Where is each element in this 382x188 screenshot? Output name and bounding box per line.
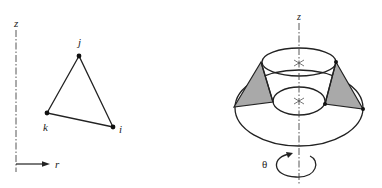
left-figure: z r j k i bbox=[13, 17, 122, 172]
node-k bbox=[45, 111, 50, 116]
right-figure: z θ bbox=[234, 11, 365, 185]
triangle-element bbox=[47, 56, 113, 127]
theta-label: θ bbox=[262, 158, 267, 170]
node-right-top bbox=[334, 60, 338, 64]
node-right-outer bbox=[361, 107, 365, 111]
r-arrow-icon bbox=[42, 161, 50, 167]
node-right-inner bbox=[323, 102, 327, 106]
z-axis-label-3d: z bbox=[296, 11, 301, 22]
node-i bbox=[111, 125, 116, 130]
rotation-arc bbox=[276, 154, 315, 177]
diagram-canvas: z r j k i bbox=[0, 0, 382, 188]
node-j bbox=[77, 54, 82, 59]
rotation-arrow-icon bbox=[286, 152, 293, 158]
r-axis-label: r bbox=[55, 158, 60, 170]
node-i-label: i bbox=[119, 123, 122, 135]
z-axis-label: z bbox=[13, 17, 19, 29]
node-k-label: k bbox=[43, 121, 49, 133]
node-j-label: j bbox=[76, 36, 81, 48]
